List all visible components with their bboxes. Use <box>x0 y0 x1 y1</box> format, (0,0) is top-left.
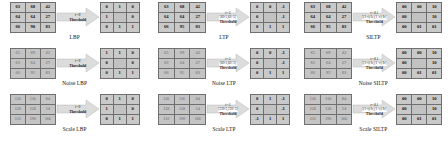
matrix-cell: 00 <box>412 95 426 104</box>
matrix-cell: 1 <box>101 49 113 58</box>
matrix-cell: 128 <box>11 105 25 114</box>
output-matrix: 0000100010000101 <box>396 94 442 125</box>
matrix-cell: 0 <box>127 105 139 114</box>
matrix-cell: 27 <box>337 13 352 22</box>
transform-row: 1261368412812854132190166t=0Threshold010… <box>0 92 149 126</box>
matrix-cell: 83 <box>190 23 205 32</box>
threshold-label: Threshold <box>362 20 387 24</box>
matrix-cell: 01 <box>427 69 441 78</box>
matrix-cell: 95 <box>321 69 336 78</box>
matrix-cell <box>412 13 426 22</box>
threshold-annotation: t=0Threshold <box>69 106 86 114</box>
matrix-cell: 00 <box>397 49 411 58</box>
matrix-cell: 83 <box>337 23 352 32</box>
block-siltp-1: 656942636427669583τ=0.1[(1-τ)·Ic,(1+τ)·I… <box>299 46 448 92</box>
matrix-cell: 95 <box>321 23 336 32</box>
block-caption: Noise LBP <box>0 80 149 86</box>
matrix-cell: 66 <box>11 69 25 78</box>
matrix-cell: 136 <box>26 95 40 104</box>
matrix-cell: 0 <box>127 3 139 12</box>
matrix-cell: 84 <box>190 95 205 104</box>
matrix-cell: 27 <box>41 59 55 68</box>
matrix-cell: -1 <box>277 3 289 12</box>
matrix-cell: 83 <box>337 69 352 78</box>
matrix-cell: 64 <box>305 13 320 22</box>
matrix-cell <box>412 105 426 114</box>
matrix-cell <box>114 13 126 22</box>
block-ltp-0: 636842646427669583t=5[60-5,60+5]Threshol… <box>149 0 298 46</box>
matrix-cell: 69 <box>175 49 190 58</box>
matrix-cell: 1 <box>127 23 139 32</box>
matrix-cell: 166 <box>337 115 352 124</box>
threshold-arrow-icon: t=0Threshold <box>56 1 100 33</box>
threshold-annotation: t=5[120-5,120+5]Threshold <box>218 104 239 115</box>
block-lbp-2: 1261368412812854132190166t=0Threshold010… <box>0 92 149 138</box>
input-matrix: 1261368412812854132190166 <box>304 94 352 125</box>
matrix-cell: 0 <box>101 115 113 124</box>
matrix-cell: 190 <box>26 115 40 124</box>
matrix-cell: 0 <box>251 23 263 32</box>
threshold-annotation: t=5[60-5,60+5]Threshold <box>219 12 236 23</box>
matrix-cell: 10 <box>427 95 441 104</box>
output-matrix: 0000100010000101 <box>396 2 442 33</box>
matrix-cell: 1 <box>114 115 126 124</box>
matrix-cell: 0 <box>127 49 139 58</box>
matrix-cell: 0 <box>101 59 113 68</box>
matrix-cell: 132 <box>305 115 320 124</box>
matrix-cell: 84 <box>337 95 352 104</box>
matrix-cell: 63 <box>305 3 320 12</box>
matrix-cell: 54 <box>190 105 205 114</box>
input-matrix: 656942636427669583 <box>10 48 56 79</box>
block-siltp-0: 636842646427669583τ=0.1[(1-τ)·Ic,(1+τ)·I… <box>299 0 448 46</box>
matrix-cell: 66 <box>159 23 174 32</box>
matrix-cell: -1 <box>277 13 289 22</box>
matrix-cell: 190 <box>175 115 190 124</box>
matrix-cell <box>264 59 276 68</box>
matrix-cell: 42 <box>190 3 205 12</box>
matrix-cell: 68 <box>175 3 190 12</box>
threshold-label: Threshold <box>69 110 86 114</box>
matrix-cell: 166 <box>41 115 55 124</box>
matrix-cell: 01 <box>427 23 441 32</box>
matrix-cell: -1 <box>251 115 263 124</box>
matrix-cell: 00 <box>412 49 426 58</box>
matrix-cell: 1 <box>101 13 113 22</box>
column-ltp: 636842646427669583t=5[60-5,60+5]Threshol… <box>149 0 298 144</box>
matrix-cell: 69 <box>321 49 336 58</box>
matrix-cell: 1 <box>101 105 113 114</box>
matrix-cell: 0 <box>251 13 263 22</box>
output-matrix: 11000011 <box>100 48 140 79</box>
matrix-cell: 00 <box>397 59 411 68</box>
matrix-cell: 0 <box>127 59 139 68</box>
matrix-cell: 68 <box>26 3 40 12</box>
matrix-cell: 1 <box>264 69 276 78</box>
matrix-cell: 65 <box>159 49 174 58</box>
threshold-label: Threshold <box>362 66 387 70</box>
threshold-arrow-icon: τ=0.1[(1-τ)·Ic,(1+τ)·Ic]Threshold <box>352 93 396 125</box>
input-matrix: 656942636427669583 <box>304 48 352 79</box>
matrix-cell: 0 <box>127 13 139 22</box>
matrix-cell: 66 <box>305 23 320 32</box>
matrix-cell: 66 <box>305 69 320 78</box>
matrix-cell: 10 <box>427 3 441 12</box>
matrix-cell: 63 <box>159 3 174 12</box>
matrix-cell: 00 <box>397 69 411 78</box>
matrix-cell: 64 <box>11 13 25 22</box>
matrix-cell: 64 <box>26 13 40 22</box>
matrix-cell <box>412 59 426 68</box>
matrix-cell: 54 <box>337 105 352 114</box>
matrix-cell: 00 <box>397 13 411 22</box>
threshold-label: Threshold <box>218 112 239 116</box>
matrix-cell: 128 <box>321 105 336 114</box>
matrix-cell: 10 <box>427 59 441 68</box>
matrix-cell: 0 <box>264 3 276 12</box>
matrix-cell: 69 <box>26 49 40 58</box>
matrix-cell: -1 <box>277 49 289 58</box>
matrix-cell <box>264 105 276 114</box>
block-caption: Scale LTP <box>149 126 298 132</box>
output-matrix: 0000100010000101 <box>396 48 442 79</box>
matrix-cell: 136 <box>321 95 336 104</box>
matrix-cell: 42 <box>337 3 352 12</box>
matrix-cell: 54 <box>41 105 55 114</box>
threshold-label: Threshold <box>219 20 236 24</box>
